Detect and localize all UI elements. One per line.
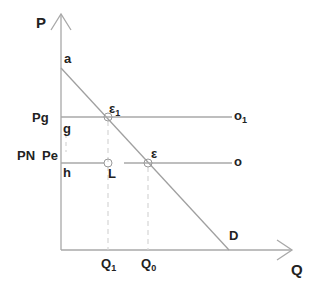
q0-label: Q0: [141, 256, 156, 273]
e1-point-label: ε1: [109, 101, 120, 118]
o1-line-end-label: o1: [234, 108, 247, 125]
demand-intercept-label: a: [64, 51, 72, 66]
economics-diagram: P Q a Pg g PN Pe h ε1 ε L o1 o D Q1 Q0: [0, 0, 312, 288]
g-point-label: g: [63, 121, 71, 136]
e-point-label: ε: [151, 146, 157, 161]
h-point-label: h: [63, 165, 71, 180]
pg-price-label: Pg: [32, 110, 49, 125]
q1-label: Q1: [101, 256, 116, 273]
x-axis-label: Q: [291, 261, 303, 278]
demand-label: D: [229, 228, 238, 243]
l-point-label: L: [108, 166, 116, 181]
y-axis-label: P: [36, 14, 46, 31]
pn-price-label: PN: [17, 148, 35, 163]
o-line-end-label: o: [234, 154, 242, 169]
demand-curve: [61, 68, 229, 250]
pe-price-label: Pe: [42, 148, 58, 163]
